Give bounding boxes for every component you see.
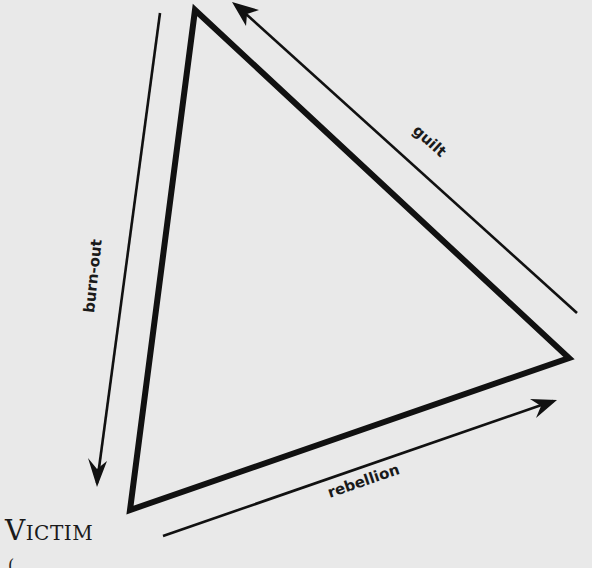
guilt-arrow <box>236 5 577 313</box>
cut-off-caption: (... <box>8 556 30 568</box>
victim-node-label: Victim <box>5 514 93 547</box>
burnout-arrowhead-icon <box>88 458 107 487</box>
burnout-arrow <box>97 13 160 483</box>
rebellion-arrow <box>163 401 553 536</box>
drama-triangle <box>130 10 569 510</box>
